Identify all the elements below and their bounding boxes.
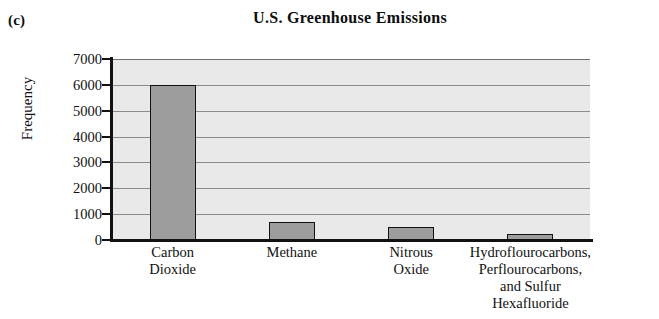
y-tick-mark-5000 — [102, 110, 113, 112]
y-tick-mark-6000 — [102, 84, 113, 86]
chart-title: U.S. Greenhouse Emissions — [140, 9, 560, 27]
panel-label: (c) — [8, 12, 25, 29]
category-label-line: Carbon — [113, 244, 233, 261]
y-axis-ticks: 70006000500040003000200010000 — [32, 0, 102, 319]
category-label-line: Perflourocarbons, — [440, 261, 620, 278]
category-label-3: Hydroflourocarbons,Perflourocarbons,and … — [440, 244, 620, 312]
category-label-0: CarbonDioxide — [113, 244, 233, 278]
gridline-7000 — [113, 59, 590, 60]
y-tick-label-7000: 7000 — [38, 51, 102, 68]
y-tick-mark-1000 — [102, 213, 113, 215]
y-tick-label-1000: 1000 — [38, 206, 102, 223]
y-tick-label-5000: 5000 — [38, 102, 102, 119]
y-tick-label-0: 0 — [38, 232, 102, 249]
category-label-line: Hexafluoride — [440, 295, 620, 312]
category-label-line: Dioxide — [113, 261, 233, 278]
plot-area — [113, 59, 590, 240]
category-label-1: Methane — [232, 244, 352, 261]
category-label-line: Methane — [232, 244, 352, 261]
y-tick-mark-3000 — [102, 161, 113, 163]
y-tick-label-6000: 6000 — [38, 76, 102, 93]
category-label-line: and Sulfur — [440, 278, 620, 295]
category-label-line: Hydroflourocarbons, — [440, 244, 620, 261]
bar-0 — [150, 85, 196, 240]
figure: (c) U.S. Greenhouse Emissions Frequency … — [0, 0, 659, 319]
x-axis-line — [110, 239, 593, 242]
bar-1 — [269, 222, 315, 240]
y-tick-label-4000: 4000 — [38, 128, 102, 145]
y-tick-mark-0 — [102, 239, 113, 241]
y-tick-mark-4000 — [102, 136, 113, 138]
y-tick-label-2000: 2000 — [38, 180, 102, 197]
y-tick-label-3000: 3000 — [38, 154, 102, 171]
y-tick-mark-7000 — [102, 58, 113, 60]
y-tick-mark-2000 — [102, 187, 113, 189]
